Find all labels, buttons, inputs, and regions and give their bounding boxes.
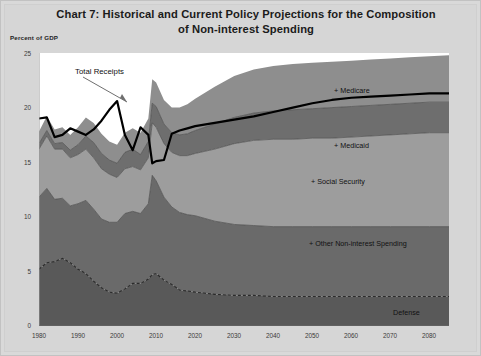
y-tick-20: 20 xyxy=(5,104,31,111)
annotation-total-receipts: Total Receipts xyxy=(75,67,124,76)
series-label-medicare: + Medicare xyxy=(334,86,370,95)
x-tick-2030: 2030 xyxy=(214,332,254,339)
chart-screenshot: Chart 7: Historical and Current Policy P… xyxy=(0,0,481,356)
series-label-defense: Defense xyxy=(393,308,420,317)
series-label-social-security: + Social Security xyxy=(311,177,365,186)
x-tick-2080: 2080 xyxy=(409,332,449,339)
y-tick-5: 5 xyxy=(5,268,31,275)
x-tick-2050: 2050 xyxy=(292,332,332,339)
x-tick-2000: 2000 xyxy=(97,332,137,339)
y-tick-0: 0 xyxy=(5,322,31,329)
x-tick-2070: 2070 xyxy=(370,332,410,339)
x-tick-1990: 1990 xyxy=(58,332,98,339)
y-tick-25: 25 xyxy=(5,50,31,57)
series-label-other: + Other Non-interest Spending xyxy=(309,239,407,248)
x-tick-2060: 2060 xyxy=(331,332,371,339)
chart-title-line-2: of Non-interest Spending xyxy=(41,22,451,37)
x-tick-2040: 2040 xyxy=(253,332,293,339)
y-tick-10: 10 xyxy=(5,213,31,220)
chart-title: Chart 7: Historical and Current Policy P… xyxy=(41,7,451,37)
chart-svg xyxy=(39,53,449,326)
x-tick-2020: 2020 xyxy=(175,332,215,339)
x-tick-2010: 2010 xyxy=(136,332,176,339)
chart-title-line-1: Chart 7: Historical and Current Policy P… xyxy=(56,8,435,20)
y-tick-15: 15 xyxy=(5,159,31,166)
plot-area xyxy=(39,53,449,326)
series-label-medicaid: + Medicaid xyxy=(334,141,369,150)
x-tick-1980: 1980 xyxy=(19,332,59,339)
y-axis-title: Percent of GDP xyxy=(10,34,58,41)
